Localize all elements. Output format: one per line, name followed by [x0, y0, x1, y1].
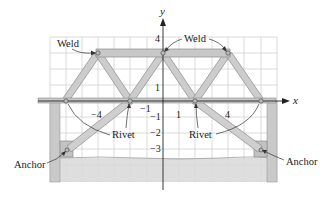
- bottom-chord-beam: [38, 98, 276, 103]
- x-tick-4: 4: [225, 109, 230, 120]
- y-tick-4: 4: [155, 33, 160, 44]
- y-axis-label: y: [159, 5, 165, 17]
- y-tick-neg3: −3: [150, 143, 161, 154]
- rivet-label-left: Rivet: [112, 129, 135, 140]
- right-pillar: [267, 101, 277, 182]
- x-axis-arrow-icon: [282, 98, 290, 104]
- y-axis-arrow-icon: [160, 18, 166, 26]
- x-tick-neg4: −4: [91, 109, 102, 120]
- weld-joint-left: [96, 51, 100, 55]
- weld-label-left: Weld: [57, 38, 80, 49]
- x-axis-label: x: [292, 94, 298, 106]
- y-tick-neg2: −2: [150, 127, 161, 138]
- rivet-joint-left: [128, 99, 132, 103]
- ground-area: [50, 158, 277, 182]
- anchor-label-left: Anchor: [14, 159, 46, 170]
- rivet-label-right: Rivet: [189, 129, 212, 140]
- rivet-joint-right: [193, 99, 197, 103]
- x-tick-1: 1: [176, 109, 181, 120]
- y-tick-1: 1: [155, 82, 160, 93]
- weld-label-right: Weld: [184, 33, 207, 44]
- support-struts: [67, 99, 262, 152]
- anchor-label-right: Anchor: [286, 156, 318, 167]
- weld-leader-left: [72, 49, 93, 53]
- y-tick-neg1: −1: [150, 111, 161, 122]
- rivet-joint-far-left: [64, 99, 68, 103]
- truss-diagram: x y −4 −1 1 4 4 1 −1 −2 −3 Weld Weld Riv…: [0, 0, 332, 203]
- left-pillar: [50, 101, 60, 182]
- weld-leader-right-a: [166, 39, 182, 50]
- rivet-joint-far-right: [259, 99, 263, 103]
